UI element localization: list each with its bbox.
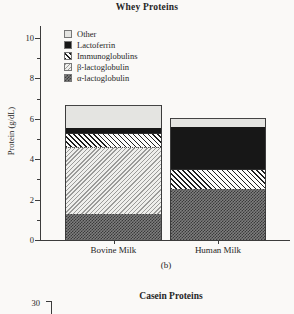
figure-panel-b: Whey Proteins Protein (g/dL) 0246810 Bov… — [0, 0, 294, 314]
legend-label: Other — [77, 30, 96, 39]
y-tick-label: 2 — [18, 195, 34, 205]
x-tick — [218, 240, 219, 244]
legend-label: α-lactoglobulin — [77, 74, 129, 83]
subfigure-caption: (b) — [0, 260, 294, 270]
next-chart-tick-mark — [46, 301, 51, 302]
x-axis-label: Human Milk — [163, 245, 273, 255]
x-axis-line — [40, 240, 290, 241]
legend-label: Lactoferrin — [77, 41, 115, 50]
bar-segment-solid-light — [66, 105, 161, 128]
legend-item: β-lactoglobulin — [64, 63, 137, 72]
chart-title: Whey Proteins — [0, 2, 294, 12]
legend-item: Other — [64, 30, 137, 39]
legend-swatch-hatch-back — [64, 52, 72, 60]
legend: OtherLactoferrinImmunoglobulinsβ-lactogl… — [64, 30, 137, 85]
legend-swatch-solid-black — [64, 41, 72, 49]
y-tick-label: 0 — [18, 235, 34, 245]
y-tick-label: 8 — [18, 73, 34, 83]
y-major-tick — [35, 240, 40, 241]
bar-segment-hatch-back — [66, 133, 161, 147]
legend-item: Immunoglobulins — [64, 52, 137, 61]
legend-label: Immunoglobulins — [77, 52, 137, 61]
x-tick — [114, 240, 115, 244]
y-axis-label: Protein (g/dL) — [6, 96, 16, 166]
y-major-tick — [35, 159, 40, 160]
next-chart-tick-label: 30 — [20, 298, 40, 308]
next-chart-y-axis-line — [51, 301, 52, 314]
y-tick-label: 10 — [18, 33, 34, 43]
bar-segment-hatch-fwd — [66, 147, 161, 214]
y-major-tick — [35, 78, 40, 79]
x-axis-label: Bovine Milk — [59, 245, 169, 255]
legend-item: α-lactoglobulin — [64, 74, 137, 83]
y-major-tick — [35, 38, 40, 39]
y-tick-label: 6 — [18, 114, 34, 124]
y-minor-tick — [37, 99, 40, 100]
bar-bovine-milk — [65, 105, 162, 240]
y-major-tick — [35, 200, 40, 201]
bar-segment-hatch-back — [171, 169, 265, 189]
legend-swatch-checker — [64, 74, 72, 82]
next-chart-title: Casein Proteins — [24, 291, 294, 301]
legend-label: β-lactoglobulin — [77, 63, 129, 72]
legend-swatch-solid-light — [64, 30, 72, 38]
bar-segment-solid-black — [171, 127, 265, 169]
y-minor-tick — [37, 139, 40, 140]
y-tick-label: 4 — [18, 154, 34, 164]
bar-segment-solid-black — [66, 128, 161, 133]
bar-segment-solid-light — [171, 118, 265, 127]
bar-segment-checker — [171, 189, 265, 240]
y-axis-line — [40, 26, 41, 240]
legend-swatch-hatch-fwd — [64, 63, 72, 71]
legend-item: Lactoferrin — [64, 41, 137, 50]
y-minor-tick — [37, 220, 40, 221]
bar-segment-checker — [66, 214, 161, 240]
y-minor-tick — [37, 179, 40, 180]
y-minor-tick — [37, 58, 40, 59]
bar-human-milk — [170, 118, 266, 240]
y-major-tick — [35, 119, 40, 120]
